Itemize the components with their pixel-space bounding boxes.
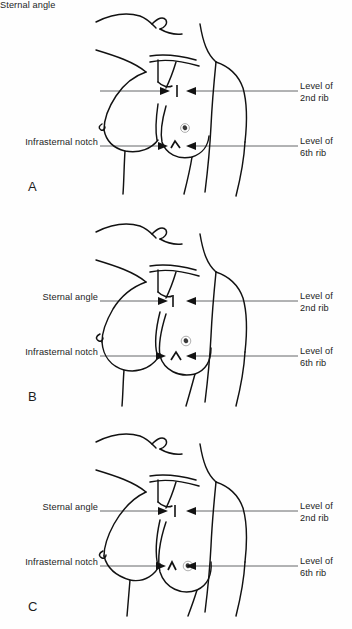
label-infrasternal-notch-c: Infrasternal notch [2,557,98,569]
anatomy-drawing-a [0,0,352,209]
label-level-2nd-rib-line1-c: Level of [300,501,352,513]
label-level-6th-rib-line2-b: 6th rib [300,358,352,370]
label-level-6th-rib-line1-a: Level of [300,136,352,148]
leader-lines-a [100,91,298,146]
anatomy-drawing-c [0,420,352,629]
label-level-6th-rib-a: Level of 6th rib [300,136,352,159]
label-level-2nd-rib-a: Level of 2nd rib [300,81,352,104]
body-outline-a [96,14,246,196]
sternal-angle-marker-b [158,295,196,307]
leader-lines-c [100,511,298,566]
label-infrasternal-notch-b: Infrasternal notch [2,347,98,359]
label-infrasternal-notch-text-c: Infrasternal notch [25,557,98,567]
areola-marker-a [181,124,190,133]
label-level-2nd-rib-line1-a: Level of [300,81,352,93]
label-sternal-angle-c: Sternal angle [2,502,98,514]
infrasternal-notch-marker-c [156,562,196,570]
label-infrasternal-notch-text-b: Infrasternal notch [25,347,98,357]
label-level-2nd-rib-b: Level of 2nd rib [300,291,352,314]
body-outline-c [96,434,246,616]
panel-letter-c: C [28,600,38,614]
areola-marker-b [181,336,191,346]
label-level-6th-rib-line1-b: Level of [300,346,352,358]
label-sternal-angle-text-b: Sternal angle [43,292,98,302]
anatomy-drawing-b [0,210,352,419]
figure-panel-a: Sternal angle Infrasternal notch Level o… [0,0,352,209]
figure-panel-c: Sternal angle Infrasternal notch Level o… [0,420,352,629]
label-level-6th-rib-line2-c: 6th rib [300,568,352,580]
label-level-2nd-rib-c: Level of 2nd rib [300,501,352,524]
label-sternal-angle-b: Sternal angle [2,292,98,304]
figure-sheet: Sternal angle Infrasternal notch Level o… [0,0,352,629]
label-infrasternal-notch-a: Infrasternal notch [2,137,98,149]
label-level-2nd-rib-line2-b: 2nd rib [300,303,352,315]
label-sternal-angle-a: Sternal angle [0,0,55,12]
label-level-6th-rib-line1-c: Level of [300,556,352,568]
infrasternal-notch-marker-b [156,352,196,360]
sternal-angle-marker-c [158,505,196,517]
body-outline-b [96,224,246,406]
label-infrasternal-notch-text-a: Infrasternal notch [25,137,98,147]
label-level-6th-rib-c: Level of 6th rib [300,556,352,579]
panel-letter-a: A [28,180,37,194]
label-sternal-angle-text-c: Sternal angle [43,502,98,512]
label-level-2nd-rib-line2-c: 2nd rib [300,513,352,525]
label-level-6th-rib-b: Level of 6th rib [300,346,352,369]
label-level-2nd-rib-line2-a: 2nd rib [300,93,352,105]
leader-lines-b [100,301,298,356]
figure-panel-b: Sternal angle Infrasternal notch Level o… [0,210,352,419]
label-level-2nd-rib-line1-b: Level of [300,291,352,303]
label-level-6th-rib-line2-a: 6th rib [300,148,352,160]
infrasternal-notch-marker-a [158,141,196,150]
panel-letter-b: B [28,390,37,404]
label-sternal-angle-text-a: Sternal angle [0,0,55,10]
